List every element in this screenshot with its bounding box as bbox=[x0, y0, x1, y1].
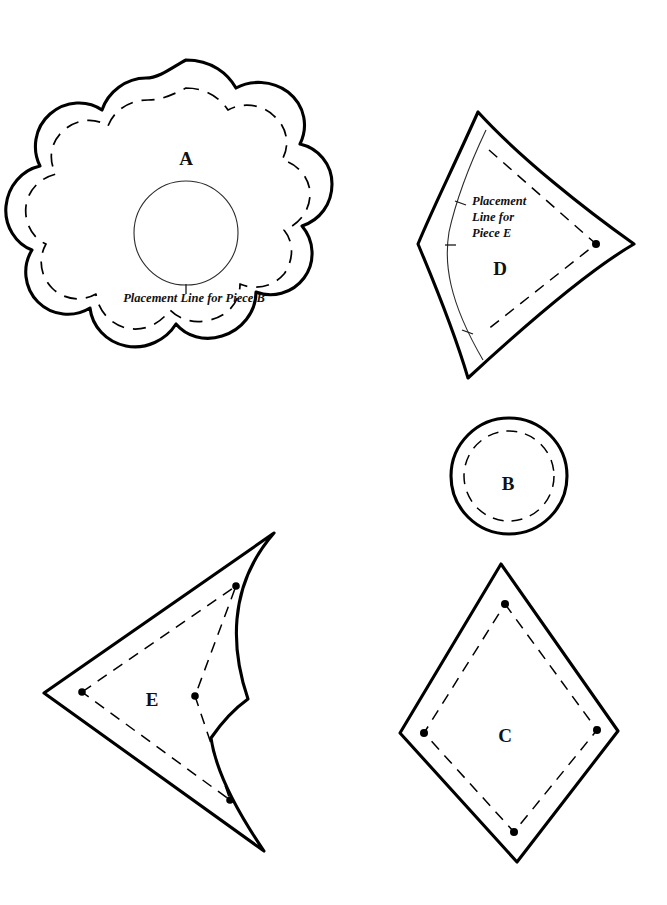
piece-d-label: D bbox=[493, 258, 507, 279]
piece-e-label: E bbox=[146, 689, 159, 710]
piece-b-label: B bbox=[502, 473, 515, 494]
piece-c-stitch-point-left bbox=[420, 729, 428, 737]
piece-e-stitch-point-notch bbox=[191, 692, 199, 700]
piece-c-stitch-point-right bbox=[593, 726, 601, 734]
piece-c-group[interactable]: C bbox=[400, 564, 618, 862]
piece-d-stitch-point bbox=[592, 240, 600, 248]
piece-a-label: A bbox=[179, 148, 193, 169]
pattern-canvas: A Placement Line for Piece B D Placement… bbox=[0, 0, 667, 905]
piece-c-label: C bbox=[498, 725, 512, 746]
pattern-sheet: A Placement Line for Piece B D Placement… bbox=[0, 0, 667, 905]
piece-d-group[interactable]: D Placement Line for Piece E bbox=[418, 112, 634, 378]
piece-e-group[interactable]: E bbox=[44, 533, 274, 851]
piece-e-stitch-point-left bbox=[78, 688, 86, 696]
piece-a-placement-note: Placement Line for Piece B bbox=[123, 291, 265, 305]
piece-d-placement-note-line-2: Line for bbox=[471, 210, 514, 224]
piece-b-group[interactable]: B bbox=[451, 418, 567, 534]
piece-c-stitch-point-bottom bbox=[510, 828, 518, 836]
piece-c-stitch-point-top bbox=[501, 600, 509, 608]
piece-e-stitch-point-top bbox=[232, 582, 240, 590]
piece-d-placement-note-line-3: Piece E bbox=[472, 226, 511, 240]
piece-d-placement-note-line-1: Placement bbox=[472, 194, 527, 208]
piece-e-stitch-point-bottom bbox=[226, 796, 234, 804]
piece-a-group[interactable]: A Placement Line for Piece B bbox=[6, 60, 332, 347]
